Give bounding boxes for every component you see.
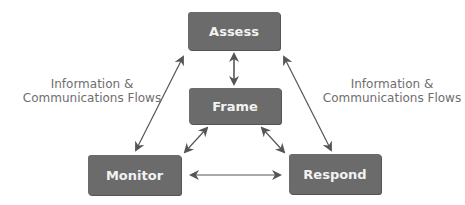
node-frame: Frame — [189, 88, 281, 124]
node-respond: Respond — [289, 154, 381, 194]
annotation-left-line1: Information & — [22, 77, 162, 91]
node-assess: Assess — [188, 12, 280, 50]
node-monitor-label: Monitor — [106, 168, 163, 183]
risk-management-diagram: Assess Frame Monitor Respond Information… — [0, 0, 465, 205]
annotation-left-line2: Communications Flows — [22, 91, 162, 105]
node-monitor: Monitor — [88, 155, 181, 195]
arrow-frame-respond — [262, 128, 284, 152]
annotation-left: Information & Communications Flows — [22, 77, 162, 105]
annotation-right-line2: Communications Flows — [322, 91, 462, 105]
node-assess-label: Assess — [209, 24, 259, 39]
node-respond-label: Respond — [303, 167, 366, 182]
node-frame-label: Frame — [212, 99, 258, 114]
annotation-right: Information & Communications Flows — [322, 77, 462, 105]
arrow-frame-monitor — [185, 128, 207, 152]
annotation-right-line1: Information & — [322, 77, 462, 91]
